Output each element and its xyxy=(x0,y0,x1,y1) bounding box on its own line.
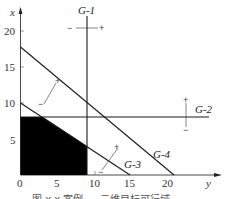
feasible-region xyxy=(21,117,88,175)
g1-minus: − xyxy=(67,23,72,33)
tick-y-0: 0 xyxy=(17,177,23,189)
figure-caption: 图 x.x 案例 — 二维目标可行域 xyxy=(32,193,170,199)
g4-label: G-4 xyxy=(153,148,171,160)
g3-minus: − xyxy=(98,167,103,177)
g1-label: G-1 xyxy=(78,4,95,16)
g2-plus: + xyxy=(183,95,188,105)
tick-y-20: 20 xyxy=(162,177,174,189)
goal-programming-diagram: x y 20 15 10 5 0 5 10 15 20 G-1 − + G-2 … xyxy=(0,0,226,199)
tick-x-20: 20 xyxy=(4,25,16,37)
g4-minus: − xyxy=(38,99,43,109)
g3-plus: + xyxy=(114,142,119,152)
tick-y-15: 15 xyxy=(124,177,136,189)
horizontal-axis-label: y xyxy=(205,177,211,189)
tick-y-10: 10 xyxy=(89,177,101,189)
g1-plus: + xyxy=(99,23,104,33)
g3-label: G-3 xyxy=(124,158,142,170)
tick-y-5: 5 xyxy=(54,177,60,189)
tick-x-15: 15 xyxy=(4,61,16,73)
horizontal-axis-arrow-icon xyxy=(214,173,222,177)
tick-x-5: 5 xyxy=(10,134,16,146)
g2-minus: − xyxy=(183,125,188,135)
vertical-axis-label: x xyxy=(9,6,15,18)
g4-plus: + xyxy=(55,76,60,86)
g2-label: G-2 xyxy=(195,103,213,115)
tick-x-10: 10 xyxy=(4,97,16,109)
vertical-axis-arrow-icon xyxy=(19,7,23,14)
